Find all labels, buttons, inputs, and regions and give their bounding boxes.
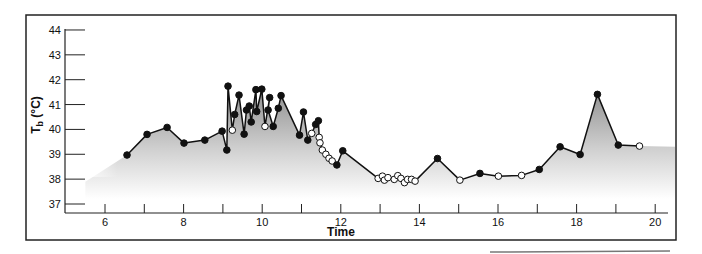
area-left-fade <box>77 117 117 177</box>
filled-data-point <box>278 92 285 99</box>
x-tick-label: 8 <box>181 216 187 228</box>
chart-canvas: 373839404142434468101214161820 Time Tb (… <box>0 0 702 254</box>
x-tick-label: 16 <box>492 216 504 228</box>
y-tick-label: 44 <box>49 24 61 36</box>
y-axis-title-unit: (°C) <box>29 96 43 121</box>
y-axis-title: Tb (°C) <box>29 96 45 134</box>
body-temperature-chart: 373839404142434468101214161820 Time Tb (… <box>0 0 702 254</box>
open-data-point <box>495 173 502 180</box>
filled-data-point <box>224 147 231 154</box>
open-data-point <box>385 174 392 181</box>
open-data-point <box>262 123 269 130</box>
y-tick-label: 42 <box>49 74 61 86</box>
filled-data-point <box>615 142 622 149</box>
filled-data-point <box>536 166 543 173</box>
filled-data-point <box>577 151 584 158</box>
filled-data-point <box>300 109 307 116</box>
open-data-point <box>308 130 315 137</box>
y-tick-label: 37 <box>49 198 61 210</box>
filled-data-point <box>434 155 441 162</box>
filled-data-point <box>181 140 188 147</box>
x-axis-title: Time <box>327 225 355 239</box>
filled-data-point <box>236 92 243 99</box>
filled-data-point <box>231 111 238 118</box>
filled-data-point <box>275 105 282 112</box>
filled-data-point <box>265 107 272 114</box>
filled-data-point <box>219 128 226 135</box>
filled-data-point <box>253 108 260 115</box>
open-data-point <box>229 127 236 134</box>
filled-data-point <box>164 124 171 131</box>
filled-data-point <box>246 103 253 110</box>
filled-data-point <box>477 170 484 177</box>
y-tick-label: 39 <box>49 148 61 160</box>
filled-data-point <box>304 137 311 144</box>
y-tick-label: 40 <box>49 123 61 135</box>
x-tick-label: 10 <box>256 216 268 228</box>
figure-frame <box>26 15 676 240</box>
filled-data-point <box>202 137 209 144</box>
open-data-point <box>412 178 419 185</box>
svg-text:Tb (°C): Tb (°C) <box>29 96 45 134</box>
filled-data-point <box>259 86 266 93</box>
x-tick-label: 6 <box>102 216 108 228</box>
open-data-point <box>317 140 324 147</box>
filled-data-point <box>315 117 322 124</box>
open-data-point <box>636 143 643 150</box>
filled-data-point <box>334 162 341 169</box>
filled-data-point <box>124 152 131 159</box>
y-tick-label: 43 <box>49 49 61 61</box>
filled-data-point <box>339 147 346 154</box>
filled-data-point <box>241 131 248 138</box>
filled-data-point <box>248 119 255 126</box>
filled-data-point <box>266 94 273 101</box>
filled-data-point <box>594 91 601 98</box>
x-tick-label: 20 <box>649 216 661 228</box>
next-figure-border <box>490 251 670 252</box>
x-tick-label: 18 <box>570 216 582 228</box>
filled-data-point <box>557 144 564 151</box>
filled-data-point <box>296 132 303 139</box>
open-data-point <box>518 172 525 179</box>
open-data-point <box>457 177 464 184</box>
y-tick-label: 38 <box>49 173 61 185</box>
filled-data-point <box>225 83 232 90</box>
y-tick-label: 41 <box>49 99 61 111</box>
filled-data-point <box>270 123 277 130</box>
filled-data-point <box>144 131 151 138</box>
x-tick-label: 14 <box>413 216 425 228</box>
